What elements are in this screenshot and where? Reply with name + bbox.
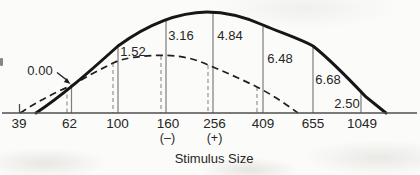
stimulus-sign-markers: (–) (+) bbox=[160, 131, 222, 145]
value-label-at-1049: 2.50 bbox=[334, 96, 359, 111]
value-label-at-256: 4.84 bbox=[217, 28, 242, 43]
left-edge-artifact bbox=[0, 58, 3, 66]
minus-stimulus-label: (–) bbox=[160, 131, 175, 145]
x-tick-label-655: 655 bbox=[302, 116, 325, 131]
x-tick-label-409: 409 bbox=[252, 116, 275, 131]
value-label-at-62: 0.00 bbox=[27, 63, 52, 78]
x-tick-label-256: 256 bbox=[203, 116, 226, 131]
dashed-curve bbox=[20, 55, 298, 113]
zero-pointer-arrow-shaft bbox=[57, 73, 66, 80]
zero-pointer-arrow bbox=[57, 73, 71, 85]
figure-svg: 0.00 1.52 3.16 4.84 6.48 6.68 2.50 39 62… bbox=[0, 0, 420, 175]
value-label-at-409: 6.48 bbox=[267, 51, 292, 66]
x-tick-label-160: 160 bbox=[157, 116, 180, 131]
plus-stimulus-label: (+) bbox=[207, 131, 223, 145]
x-tick-label-62: 62 bbox=[62, 116, 77, 131]
x-tick-label-100: 100 bbox=[106, 116, 129, 131]
value-label-at-160: 3.16 bbox=[168, 28, 193, 43]
value-label-at-100: 1.52 bbox=[120, 44, 145, 59]
x-tick-label-39: 39 bbox=[11, 116, 26, 131]
stimulus-generalization-figure: 0.00 1.52 3.16 4.84 6.48 6.68 2.50 39 62… bbox=[0, 0, 420, 175]
value-label-at-655: 6.68 bbox=[315, 72, 340, 87]
difference-value-labels: 0.00 1.52 3.16 4.84 6.48 6.68 2.50 bbox=[27, 28, 359, 111]
x-axis-title: Stimulus Size bbox=[175, 151, 254, 166]
x-tick-labels: 39 62 100 160 256 409 655 1049 bbox=[11, 116, 377, 131]
x-tick-label-1049: 1049 bbox=[347, 116, 377, 131]
